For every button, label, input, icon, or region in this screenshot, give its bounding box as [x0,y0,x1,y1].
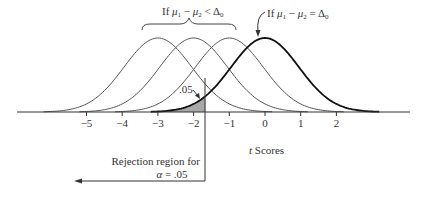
shifted-distribution-curve [79,38,307,112]
shifted-distribution-curve [44,38,272,112]
brace-label: If μ1 − μ2 < Δ0 [162,5,224,19]
x-tick-label: −2 [188,117,200,129]
x-tick-label: 1 [298,117,304,129]
x-axis-ticks: −5−4−3−2−1012 [81,112,340,129]
x-tick-label: −5 [81,117,93,129]
null-label-arrow [258,12,265,33]
t-distribution-diagram: −5−4−3−2−1012 If μ1 − μ2 < Δ0 If μ1 − μ2… [0,0,422,197]
down-arrow-icon [256,30,261,37]
x-tick-label: −3 [152,117,164,129]
x-tick-label: −1 [223,117,235,129]
null-hypothesis-label: If μ1 − μ2 = Δ0 [267,7,329,21]
x-axis-label: t Scores [249,144,284,156]
x-tick-label: 0 [262,117,268,129]
left-arrow-icon [74,179,82,184]
tail-area-label: .05 [179,83,193,95]
brace [142,18,236,30]
alpha-label: α = .05 [156,168,188,180]
rejection-region-label: Rejection region for [111,155,200,167]
distribution-curves [44,38,380,112]
x-tick-label: −4 [116,117,128,129]
shifted-distribution-curve [115,38,343,112]
null-distribution-curve [151,38,379,112]
x-tick-label: 2 [334,117,340,129]
